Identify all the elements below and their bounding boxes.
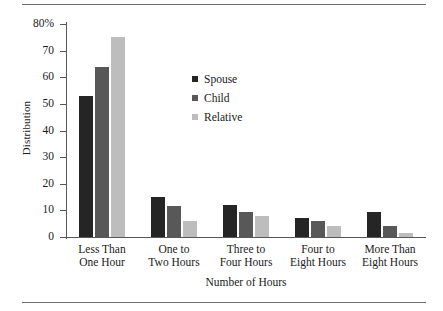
x-axis-tick-label: One toTwo Hours [138, 243, 210, 269]
x-axis-tick-label: Four toEight Hours [282, 243, 354, 269]
x-axis-tick-label-line: More Than [354, 243, 426, 256]
y-axis-tick-label: 60 [8, 71, 54, 83]
bar [167, 206, 181, 237]
y-axis-tick-label: 40 [8, 125, 54, 137]
x-axis-tick-label-line: Two Hours [138, 256, 210, 269]
legend-label: Child [204, 92, 230, 104]
y-axis-tick-labels: 01020304050607080% [6, 0, 54, 311]
legend-label: Relative [204, 111, 242, 123]
bar [255, 216, 269, 237]
y-axis-tick-label: 70 [8, 45, 54, 57]
chart-legend: SpouseChildRelative [192, 69, 242, 126]
x-axis-title: Number of Hours [66, 276, 426, 288]
x-axis-tick-label: More ThanEight Hours [354, 243, 426, 269]
legend-item-child: Child [192, 88, 242, 107]
x-axis-tick-label-line: Eight Hours [282, 256, 354, 269]
legend-swatch-icon [192, 76, 198, 82]
bar [239, 212, 253, 237]
y-axis-tick-label: 10 [8, 204, 54, 216]
bar-group [295, 24, 341, 237]
top-rule [22, 4, 426, 5]
bar [183, 221, 197, 237]
y-axis-tick-label: 20 [8, 178, 54, 190]
x-axis-tick-label-line: Eight Hours [354, 256, 426, 269]
legend-swatch-icon [192, 114, 198, 120]
x-axis-tick-label-line: Three to [210, 243, 282, 256]
bar [327, 226, 341, 237]
x-axis-line [66, 237, 426, 238]
bottom-rule [22, 302, 426, 303]
x-axis-tick-label-line: Less Than [66, 243, 138, 256]
legend-item-relative: Relative [192, 107, 242, 126]
x-axis-tick-label-line: Four Hours [210, 256, 282, 269]
y-axis-tick-label: 50 [8, 98, 54, 110]
legend-label: Spouse [204, 73, 237, 85]
chart-figure: Distribution 01020304050607080% Less Tha… [0, 0, 443, 311]
bar-group [151, 24, 197, 237]
y-axis-tick-label: 30 [8, 151, 54, 163]
bar [399, 233, 413, 237]
x-axis-tick-label-line: One Hour [66, 256, 138, 269]
bar [95, 67, 109, 237]
bar [223, 205, 237, 237]
bar [151, 197, 165, 237]
x-axis-tick-label-line: Four to [282, 243, 354, 256]
bar [367, 212, 381, 237]
plot-area [66, 24, 426, 237]
x-axis-tick-label-line: One to [138, 243, 210, 256]
x-axis-tick-label: Three toFour Hours [210, 243, 282, 269]
bar-group [223, 24, 269, 237]
bar-group [367, 24, 413, 237]
legend-swatch-icon [192, 95, 198, 101]
legend-item-spouse: Spouse [192, 69, 242, 88]
y-axis-tick-label: 0 [8, 231, 54, 243]
bar [311, 221, 325, 237]
x-axis-tick-label: Less ThanOne Hour [66, 243, 138, 269]
bar [111, 37, 125, 237]
y-axis-tick-label: 80% [8, 18, 54, 30]
bar [295, 218, 309, 237]
bar [383, 226, 397, 237]
bar-group [79, 24, 125, 237]
bar [79, 96, 93, 237]
